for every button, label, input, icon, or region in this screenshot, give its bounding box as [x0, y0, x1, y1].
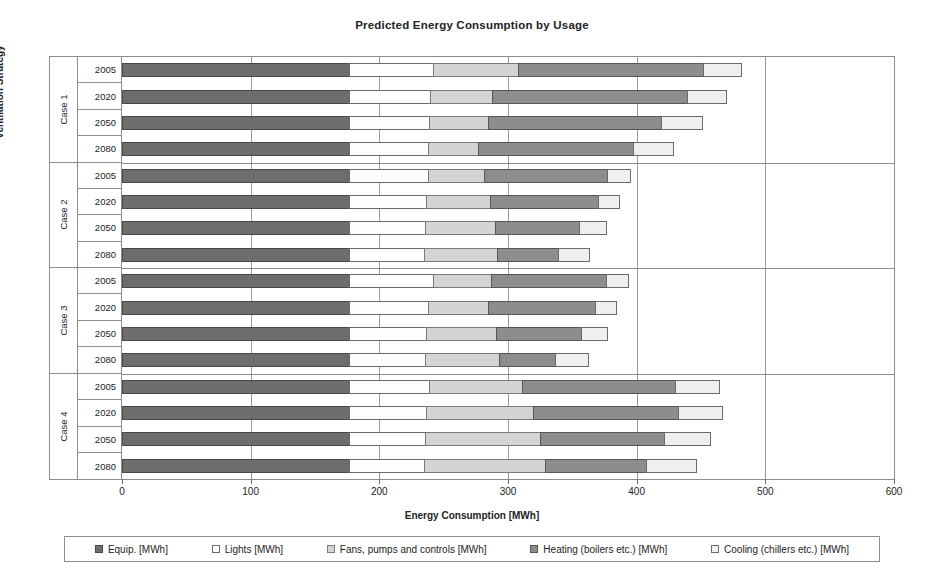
x-tick-mark: [765, 479, 766, 484]
y-tick-label: 2050: [78, 321, 121, 347]
bar-segment-fans: [428, 169, 486, 183]
group-separator: [122, 268, 894, 269]
y-tick-label: 2020: [78, 294, 121, 320]
legend-swatch-icon: [327, 545, 335, 553]
bar-segment-lights: [349, 116, 430, 130]
stacked-bar: [122, 142, 674, 156]
bar-segment-cooling: [664, 432, 712, 446]
bar-segment-cooling: [606, 274, 629, 288]
bar-segment-fans: [425, 353, 500, 367]
legend-item[interactable]: Lights [MWh]: [212, 544, 283, 555]
chart-legend: Equip. [MWh]Lights [MWh]Fans, pumps and …: [64, 536, 880, 562]
stacked-bar: [122, 90, 727, 104]
bar-segment-lights: [349, 169, 429, 183]
bar-segment-lights: [349, 327, 427, 341]
legend-label: Cooling (chillers etc.) [MWh]: [724, 544, 849, 555]
stacked-bar: [122, 169, 631, 183]
case-group: Case 22005202020502080: [50, 163, 121, 269]
y-tick-label: 2005: [78, 374, 121, 401]
bar-segment-fans: [429, 116, 489, 130]
x-tick-mark: [379, 479, 380, 484]
legend-swatch-icon: [711, 545, 719, 553]
case-group: Case 42005202020502080: [50, 374, 121, 480]
legend-label: Equip. [MWh]: [108, 544, 168, 555]
bar-segment-lights: [349, 459, 425, 473]
y-tick-label: 2020: [78, 83, 121, 109]
bar-segment-heating: [492, 90, 688, 104]
y-tick-label: 2050: [78, 110, 121, 136]
stacked-bar: [122, 353, 589, 367]
bar-segment-heating: [490, 195, 599, 209]
x-tick-mark: [251, 479, 252, 484]
stacked-bar: [122, 274, 629, 288]
bar-segment-equip: [122, 90, 350, 104]
stacked-bar: [122, 195, 620, 209]
y-tick-label: 2050: [78, 427, 121, 454]
y-tick-label: 2005: [78, 57, 121, 83]
legend-item[interactable]: Heating (boilers etc.) [MWh]: [530, 544, 667, 555]
bar-segment-fans: [428, 301, 490, 315]
bar-segment-cooling: [675, 380, 720, 394]
bar-segment-equip: [122, 432, 350, 446]
bar-segment-heating: [488, 116, 662, 130]
bar-segment-fans: [424, 459, 546, 473]
bar-segment-equip: [122, 274, 350, 288]
bar-segment-heating: [540, 432, 665, 446]
y-tick-label: 2005: [78, 163, 121, 189]
bar-segment-cooling: [598, 195, 620, 209]
case-group: Case 32005202020502080: [50, 268, 121, 374]
bar-segment-lights: [349, 221, 426, 235]
bar-segment-lights: [349, 274, 434, 288]
x-tick-label: 100: [242, 486, 259, 497]
stacked-bar: [122, 116, 703, 130]
legend-item[interactable]: Fans, pumps and controls [MWh]: [327, 544, 487, 555]
bar-segment-cooling: [579, 221, 607, 235]
bar-segment-lights: [349, 301, 429, 315]
bar-segment-fans: [428, 142, 479, 156]
x-tick-label: 500: [757, 486, 774, 497]
y-tick-label: 2080: [78, 242, 121, 267]
bar-segment-lights: [349, 406, 427, 420]
bar-segment-equip: [122, 142, 350, 156]
case-label: Case 3: [58, 305, 69, 335]
bar-segment-lights: [349, 90, 431, 104]
x-tick-mark: [637, 479, 638, 484]
y-axis-title: Ventilation Strategy: [0, 0, 5, 192]
plot-area: [122, 57, 894, 479]
bar-segment-cooling: [607, 169, 631, 183]
legend-item[interactable]: Cooling (chillers etc.) [MWh]: [711, 544, 849, 555]
bar-segment-heating: [497, 248, 559, 262]
bar-segment-fans: [433, 63, 519, 77]
bar-segment-equip: [122, 195, 350, 209]
bar-segment-cooling: [555, 353, 588, 367]
bar-segment-fans: [425, 432, 541, 446]
case-label-cell: Case 4: [50, 374, 78, 480]
bar-segment-equip: [122, 116, 350, 130]
legend-item[interactable]: Equip. [MWh]: [95, 544, 168, 555]
stacked-bar: [122, 63, 742, 77]
case-label: Case 4: [58, 411, 69, 441]
bar-segment-equip: [122, 169, 350, 183]
y-axis-categories: Case 12005202020502080Case 2200520202050…: [50, 57, 122, 479]
stacked-bar: [122, 432, 711, 446]
bar-segment-heating: [533, 406, 678, 420]
page-title: Predicted Energy Consumption by Usage: [0, 19, 944, 31]
stacked-bar: [122, 406, 723, 420]
legend-swatch-icon: [530, 545, 538, 553]
bar-segment-heating: [491, 274, 607, 288]
x-axis: 0100200300400500600: [122, 479, 894, 503]
chart-page: Predicted Energy Consumption by Usage Ve…: [0, 0, 944, 588]
bar-segment-heating: [499, 353, 557, 367]
stacked-bar: [122, 459, 697, 473]
stacked-bar: [122, 301, 617, 315]
y-tick-label: 2080: [78, 347, 121, 372]
bar-segment-equip: [122, 248, 350, 262]
bar-segment-cooling: [678, 406, 723, 420]
x-axis-title: Energy Consumption [MWh]: [0, 510, 944, 521]
stacked-bar: [122, 248, 590, 262]
legend-swatch-icon: [212, 545, 220, 553]
bar-segment-lights: [349, 248, 425, 262]
x-tick-mark: [508, 479, 509, 484]
x-tick-mark: [894, 479, 895, 484]
bar-segment-heating: [488, 301, 596, 315]
